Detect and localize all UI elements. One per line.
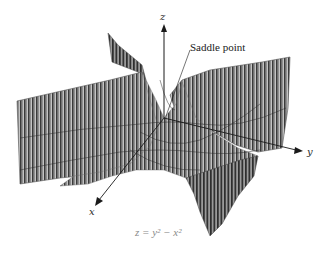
- saddle-point-label: Saddle point: [190, 41, 245, 53]
- saddle-surface-figure: z y x Saddle point z = y² − x²: [0, 0, 331, 257]
- y-axis-arrowhead-icon: [294, 147, 303, 154]
- z-axis-label: z: [159, 11, 166, 22]
- y-axis-label: y: [306, 146, 313, 157]
- x-axis-label: x: [89, 206, 95, 217]
- x-axis-arrowhead-icon: [95, 197, 103, 206]
- z-axis-arrowhead-icon: [161, 24, 167, 32]
- equation-label: z = y² − x²: [134, 226, 182, 238]
